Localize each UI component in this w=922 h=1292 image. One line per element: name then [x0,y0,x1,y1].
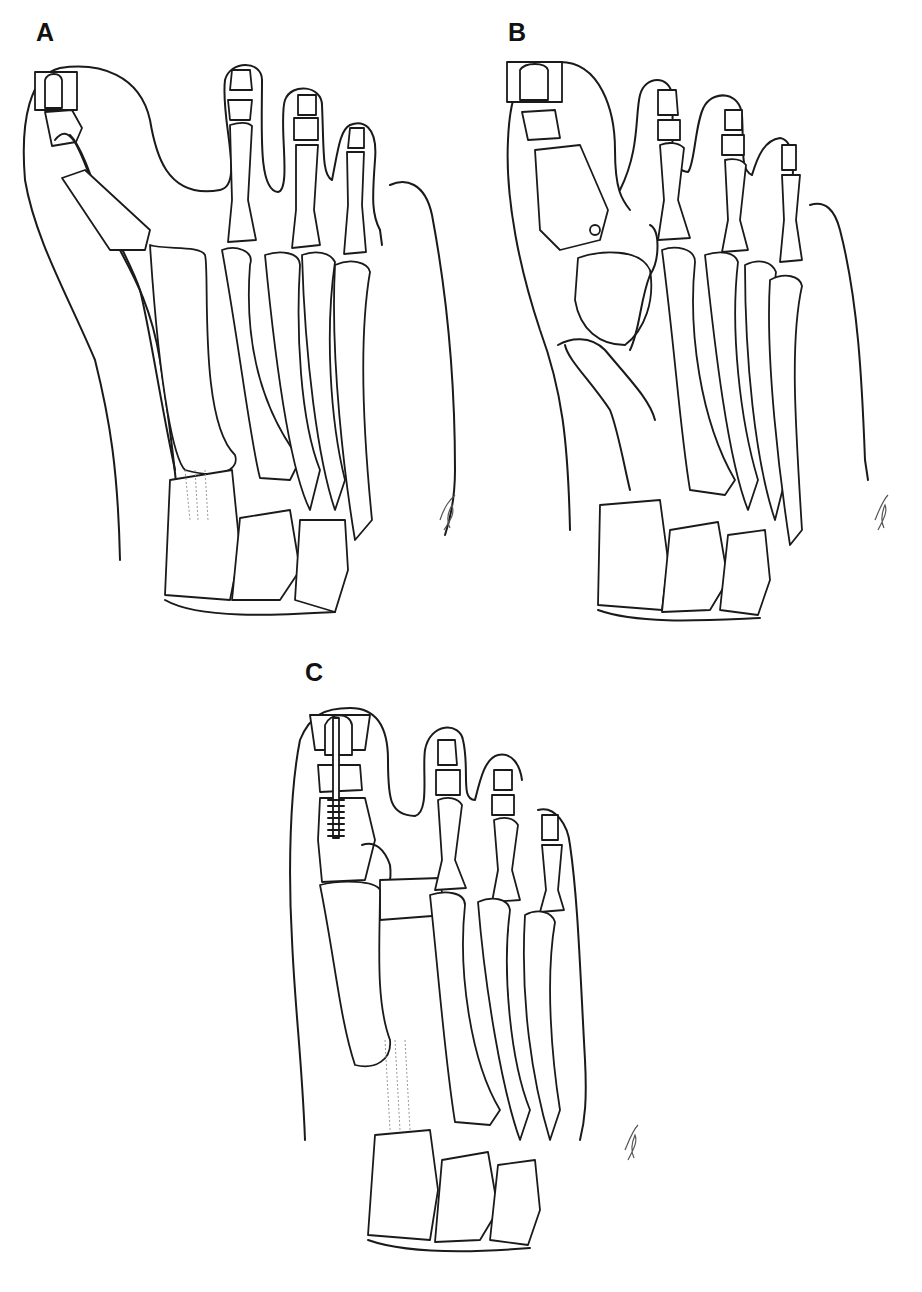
signature-a [0,0,470,640]
signature-b [490,0,922,640]
signature-c [280,640,700,1292]
panel-a: A [0,0,470,640]
panel-c: C [280,640,700,1292]
panel-b: B [490,0,922,640]
